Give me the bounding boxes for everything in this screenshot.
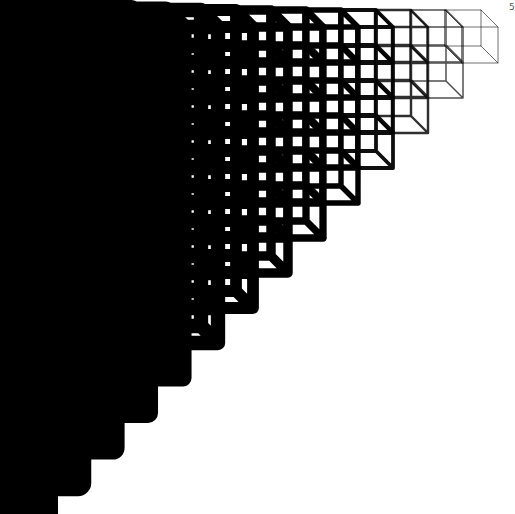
cube-column-13 (0, 10, 43, 514)
corner-label: 5 (509, 2, 515, 12)
cube-column-4 (305, 10, 358, 203)
wireframe-cube (0, 465, 43, 514)
